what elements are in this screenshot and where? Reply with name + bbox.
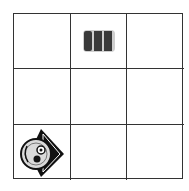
- cell-2-1[interactable]: [71, 125, 127, 180]
- cell-0-1[interactable]: [71, 14, 127, 69]
- cell-0-0[interactable]: [14, 14, 71, 69]
- cell-0-2[interactable]: [127, 14, 184, 69]
- cell-1-1[interactable]: [71, 69, 127, 125]
- cell-2-2[interactable]: [127, 125, 184, 180]
- disc-diamond-icon: [19, 128, 65, 178]
- cell-2-0[interactable]: [14, 125, 71, 180]
- game-board: [13, 13, 183, 179]
- battery-block-icon: [82, 29, 116, 53]
- cell-1-2[interactable]: [127, 69, 184, 125]
- cell-1-0[interactable]: [14, 69, 71, 125]
